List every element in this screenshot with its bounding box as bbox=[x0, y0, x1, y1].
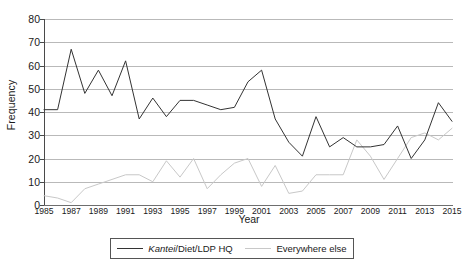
x-axis-title-text: Year bbox=[238, 213, 259, 225]
series-line-kantei-diet-ldp-hq bbox=[44, 49, 452, 158]
legend-swatch-line-icon bbox=[245, 248, 271, 249]
legend-item-2: Everywhere else bbox=[245, 243, 346, 254]
legend-label: Everywhere else bbox=[276, 243, 346, 254]
data-lines bbox=[44, 19, 453, 205]
legend-label: Kantei/Diet/LDP HQ bbox=[148, 243, 232, 254]
plot-area bbox=[44, 19, 453, 205]
y-axis-tick-marks bbox=[0, 19, 44, 205]
chart-legend: Kantei/Diet/LDP HQEverywhere else bbox=[110, 238, 354, 259]
series-container bbox=[44, 19, 453, 205]
legend-label-rest: /Diet/LDP HQ bbox=[175, 243, 232, 254]
legend-label-italic-part: Kantei bbox=[148, 243, 175, 254]
x-axis-title: Year bbox=[44, 213, 454, 225]
series-line-everywhere-else bbox=[44, 128, 452, 202]
legend-swatch-line-icon bbox=[117, 248, 143, 249]
legend-item-1: Kantei/Diet/LDP HQ bbox=[117, 243, 232, 254]
